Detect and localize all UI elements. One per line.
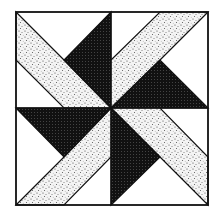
quilt-block: [0, 0, 217, 212]
